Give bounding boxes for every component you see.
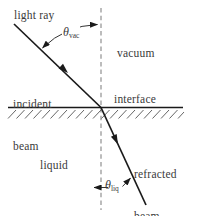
interface-label: interface (114, 92, 156, 106)
refraction-diagram: light ray θvac vacuum incident beam inte… (0, 0, 202, 216)
refracted-beam-label-line1: refracted (134, 167, 177, 181)
refracted-beam-label-line2: beam (134, 209, 177, 216)
incident-beam-label-line2: beam (13, 139, 52, 153)
liquid-label: liquid (40, 158, 68, 172)
refracted-beam-label: refracted beam (134, 139, 177, 216)
theta-vac-label: θvac (62, 26, 80, 42)
theta-liq-subscript: liq (111, 184, 119, 193)
incident-beam-label-line1: incident (13, 97, 52, 111)
theta-liq-label: θliq (104, 179, 120, 195)
light-ray-label: light ray (14, 8, 54, 22)
theta-vac-subscript: vac (69, 31, 79, 40)
refracted-beam-arrowhead-icon (111, 134, 118, 144)
vacuum-label: vacuum (117, 46, 155, 60)
theta-liq-beam-arrow-icon (123, 178, 131, 187)
